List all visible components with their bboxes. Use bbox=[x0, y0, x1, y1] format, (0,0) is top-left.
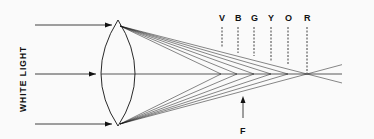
color-label-r: R bbox=[304, 13, 311, 23]
refracted-ray bbox=[120, 26, 237, 74]
focus-label: F bbox=[240, 126, 246, 136]
color-label-o: O bbox=[285, 13, 292, 23]
color-labels: VBGYOR bbox=[219, 13, 311, 73]
refracted-ray bbox=[120, 74, 288, 124]
color-label-y: Y bbox=[268, 13, 274, 23]
arrowhead-icon bbox=[89, 72, 96, 77]
convex-lens bbox=[101, 20, 135, 126]
white-light-label: WHITE LIGHT bbox=[18, 46, 28, 112]
arrowhead-icon bbox=[105, 122, 112, 127]
arrowhead-icon bbox=[241, 96, 246, 103]
ray-red-cross bbox=[120, 26, 342, 83]
refracted-ray bbox=[120, 26, 271, 74]
color-label-g: G bbox=[251, 13, 258, 23]
refracted-ray bbox=[120, 26, 288, 74]
color-label-b: B bbox=[235, 13, 242, 23]
ray-red-cross bbox=[120, 65, 342, 124]
color-label-v: V bbox=[219, 13, 225, 23]
refracted-ray bbox=[120, 74, 221, 124]
chromatic-aberration-diagram: WHITE LIGHT VBGYOR F bbox=[0, 0, 374, 139]
diagram-canvas: WHITE LIGHT VBGYOR F bbox=[0, 0, 374, 139]
refracted-ray bbox=[120, 74, 254, 124]
light-rays bbox=[35, 20, 342, 127]
refracted-ray bbox=[120, 74, 237, 124]
refracted-ray bbox=[120, 26, 254, 74]
refracted-ray bbox=[120, 74, 271, 124]
arrowhead-icon bbox=[105, 23, 112, 28]
